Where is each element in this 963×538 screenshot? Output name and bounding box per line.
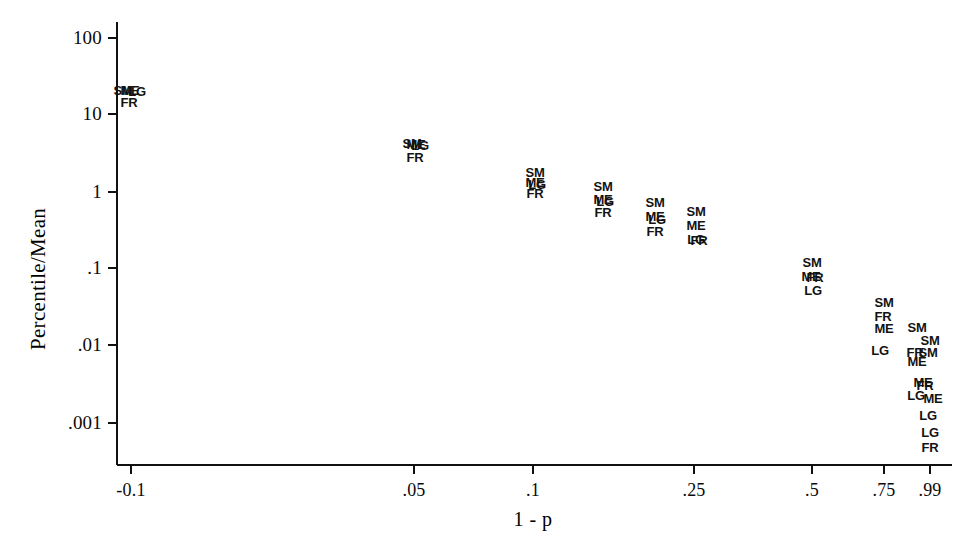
x-tick-label: .99 bbox=[918, 480, 941, 501]
data-point-label-sm: SM bbox=[645, 196, 664, 209]
y-tick-label: .1 bbox=[0, 257, 102, 279]
data-point-label-fr: FR bbox=[407, 151, 424, 164]
x-tick-label: -0.1 bbox=[116, 480, 145, 501]
plot-area: 100101.1.01.001 -0.1.05.1.25.5.75.99 SMM… bbox=[0, 0, 963, 538]
y-tick-label: .001 bbox=[0, 412, 102, 434]
data-point-label-fr: FR bbox=[121, 96, 138, 109]
x-tick-label: .25 bbox=[682, 480, 705, 501]
y-tick-label: 1 bbox=[0, 181, 102, 203]
x-tick-label: .1 bbox=[526, 480, 540, 501]
y-tick-label: 100 bbox=[0, 27, 102, 49]
data-point-label-lg: LG bbox=[907, 389, 925, 402]
y-tick-label: 10 bbox=[0, 103, 102, 125]
y-axis-title: Percentile/Mean bbox=[26, 208, 51, 350]
data-point-label-sm: SM bbox=[802, 256, 821, 269]
data-point-label-sm: SM bbox=[686, 205, 705, 218]
y-tick-label: .01 bbox=[0, 334, 102, 356]
x-tick-label: .75 bbox=[872, 480, 895, 501]
x-tick-label: .05 bbox=[402, 480, 425, 501]
chart-figure: 100101.1.01.001 -0.1.05.1.25.5.75.99 SMM… bbox=[0, 0, 963, 538]
data-point-label-me: ME bbox=[923, 392, 942, 405]
data-point-label-fr: FR bbox=[647, 225, 664, 238]
data-point-label-fr: FR bbox=[595, 206, 612, 219]
data-point-label-lg: LG bbox=[871, 344, 889, 357]
data-point-label-fr: FR bbox=[691, 234, 708, 247]
data-point-label-sm: SM bbox=[874, 296, 893, 309]
data-point-label-lg: LG bbox=[804, 284, 822, 297]
data-point-label-lg: LG bbox=[919, 409, 937, 422]
data-point-label-fr: FR bbox=[922, 441, 939, 454]
data-point-label-fr: FR bbox=[527, 187, 544, 200]
data-point-label-me: ME bbox=[907, 355, 926, 368]
x-tick-label: .5 bbox=[805, 480, 819, 501]
data-point-label-lg: LG bbox=[921, 426, 939, 439]
data-point-label-me: ME bbox=[686, 219, 705, 232]
data-point-label-me: ME bbox=[874, 322, 893, 335]
x-axis-title: 1 - p bbox=[513, 508, 552, 531]
